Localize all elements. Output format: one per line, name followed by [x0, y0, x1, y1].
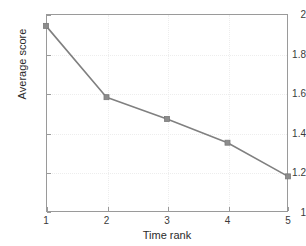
y-tick-label: 1.6	[266, 88, 306, 99]
x-tick-label: 2	[92, 215, 122, 226]
y-tick-label: 2	[266, 9, 306, 20]
x-axis-label: Time rank	[46, 229, 288, 241]
x-tick-label: 3	[152, 215, 182, 226]
line-series-average-score	[46, 26, 288, 176]
y-tick-mark	[47, 212, 51, 213]
y-axis-label: Average score	[16, 0, 28, 134]
data-point-markers	[44, 23, 291, 178]
x-tick-label: 1	[31, 215, 61, 226]
y-tick-label: 1.2	[266, 167, 306, 178]
x-tick-label: 4	[213, 215, 243, 226]
x-tick-label: 5	[273, 215, 303, 226]
y-tick-label: 1.4	[266, 127, 306, 138]
data-series-layer	[46, 14, 288, 212]
data-point-marker	[225, 140, 230, 145]
data-point-marker	[44, 23, 49, 28]
y-tick-label: 1.8	[266, 48, 306, 59]
data-point-marker	[165, 116, 170, 121]
chart-container: 2 1.8 1.6 1.4 1.2 1 1 2 3 4 5 Time rank …	[0, 0, 306, 246]
data-point-marker	[104, 95, 109, 100]
